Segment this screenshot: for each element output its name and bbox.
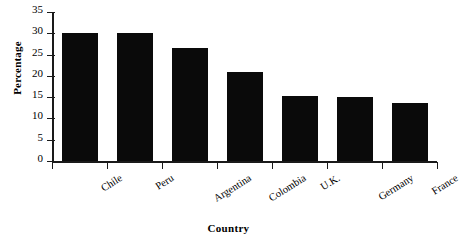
y-axis-line	[52, 12, 54, 161]
bar	[172, 48, 208, 161]
y-tick: 10	[47, 118, 55, 119]
bar	[227, 72, 263, 161]
bar	[117, 33, 153, 161]
y-tick-label: 20	[19, 68, 43, 79]
y-tick: 5	[47, 140, 55, 141]
y-tick: 35	[47, 12, 55, 13]
bar	[62, 33, 98, 161]
y-tick-label: 15	[19, 89, 43, 100]
x-tick-label: Argentina	[212, 173, 253, 204]
x-tick	[437, 162, 438, 169]
y-tick-label: 25	[19, 47, 43, 58]
y-tick-label: 0	[19, 153, 43, 164]
x-tick	[107, 162, 108, 169]
y-tick-label: 10	[19, 110, 43, 121]
x-tick-label: Germany	[376, 173, 415, 203]
y-tick: 15	[47, 97, 55, 98]
y-tick-label: 30	[19, 25, 43, 36]
y-tick: 25	[47, 55, 55, 56]
x-tick-label: Chile	[99, 173, 124, 194]
x-tick	[52, 162, 53, 169]
x-tick-label: Colombia	[267, 173, 308, 204]
bar	[282, 96, 318, 161]
x-tick-label: U.K.	[319, 173, 342, 193]
x-tick-label: Peru	[153, 173, 175, 192]
x-tick	[272, 162, 273, 169]
x-axis-line	[52, 161, 437, 163]
x-tick	[162, 162, 163, 169]
x-tick-label: France	[430, 173, 460, 197]
y-tick-label: 35	[19, 4, 43, 15]
y-tick: 0	[47, 161, 55, 162]
x-tick	[327, 162, 328, 169]
bar	[392, 103, 428, 161]
y-tick: 20	[47, 76, 55, 77]
y-tick: 30	[47, 33, 55, 34]
x-tick	[217, 162, 218, 169]
plot-area: 05101520253035 ChilePeruArgentinaColombi…	[52, 12, 437, 161]
x-axis-title: Country	[0, 222, 457, 234]
x-tick	[382, 162, 383, 169]
y-tick-label: 5	[19, 132, 43, 143]
bar	[337, 97, 373, 161]
